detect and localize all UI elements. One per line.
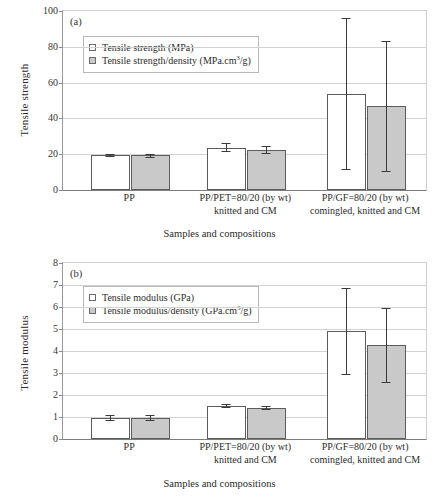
- y-axis-tick-mark: [59, 417, 63, 418]
- y-axis-title-b: Tensile modulus: [18, 273, 30, 433]
- error-bar-cap: [146, 157, 155, 158]
- y-axis-tick-mark: [59, 190, 63, 191]
- y-axis-tick-mark: [59, 307, 63, 308]
- y-axis-tick-mark: [59, 11, 63, 12]
- bar: [131, 155, 170, 190]
- error-bar-cap: [106, 420, 115, 421]
- plot-area-b: (b) Tensile modulus (GPa)Tensile modulus…: [62, 262, 427, 440]
- y-axis-tick-mark: [59, 351, 63, 352]
- error-bar: [346, 288, 347, 374]
- y-axis-tick-label: 6: [53, 302, 58, 312]
- y-axis-tick-mark: [59, 263, 63, 264]
- legend-item: Tensile modulus (GPa): [89, 292, 251, 303]
- error-bar-cap: [262, 409, 271, 410]
- y-axis-tick-label: 5: [53, 324, 58, 334]
- error-bar-cap: [222, 407, 231, 408]
- y-axis-tick-mark: [59, 154, 63, 155]
- error-bar-cap: [106, 156, 115, 157]
- gridline: [63, 329, 426, 330]
- x-axis-category-line1: PP/GF=80/20 (by wt): [290, 192, 439, 205]
- y-axis-tick-mark: [59, 47, 63, 48]
- error-bar-cap: [262, 153, 271, 154]
- gridline: [63, 47, 426, 48]
- y-axis-tick-mark: [59, 395, 63, 396]
- y-axis-tick-label: 3: [53, 368, 58, 378]
- error-bar-cap: [342, 288, 351, 289]
- error-bar-cap: [382, 41, 391, 42]
- plot-area-a: (a) Tensile strength (MPa)Tensile streng…: [62, 10, 427, 191]
- error-bar-cap: [222, 151, 231, 152]
- legend-item: Tensile modulus/density (GPa.cm3/g): [89, 304, 251, 316]
- y-axis-tick-label: 100: [43, 6, 58, 16]
- y-axis-tick-label: 4: [53, 346, 58, 356]
- error-bar-cap: [382, 308, 391, 309]
- y-axis-tick-label: 7: [53, 280, 58, 290]
- y-axis-tick-mark: [59, 373, 63, 374]
- legend-b: Tensile modulus (GPa)Tensile modulus/den…: [83, 286, 259, 323]
- bar: [91, 418, 130, 439]
- bar: [247, 408, 286, 439]
- y-axis-tick-mark: [59, 329, 63, 330]
- y-axis-tick-mark: [59, 118, 63, 119]
- gridline: [63, 285, 426, 286]
- chart-panel-a: Tensile strength (a) Tensile strength (M…: [0, 0, 439, 249]
- error-bar: [346, 18, 347, 168]
- x-axis-category-line2: comingled, knitted and CM: [290, 454, 439, 467]
- legend-item: Tensile strength/density (MPa.cm3/g): [89, 54, 251, 66]
- y-axis-tick-label: 2: [53, 390, 58, 400]
- error-bar-cap: [146, 420, 155, 421]
- error-bar-cap: [342, 169, 351, 170]
- legend-swatch-filled-icon: [89, 57, 96, 64]
- error-bar-cap: [262, 406, 271, 407]
- y-axis-tick-label: 60: [48, 78, 58, 88]
- y-axis-tick-mark: [59, 285, 63, 286]
- error-bar-cap: [382, 171, 391, 172]
- y-axis-title-a: Tensile strength: [18, 20, 30, 180]
- y-axis-tick-label: 40: [48, 113, 58, 123]
- gridline: [63, 83, 426, 84]
- x-axis-title-a: Samples and compositions: [0, 228, 439, 239]
- legend-item-label: Tensile strength/density (MPa.cm3/g): [102, 54, 251, 66]
- error-bar: [226, 143, 227, 151]
- panel-label-a: (a): [70, 16, 82, 27]
- error-bar-cap: [262, 146, 271, 147]
- error-bar-cap: [222, 143, 231, 144]
- error-bar-cap: [146, 154, 155, 155]
- legend-swatch-open-icon: [89, 294, 96, 301]
- x-axis-category-line2: comingled, knitted and CM: [290, 205, 439, 218]
- x-axis-title-b: Samples and compositions: [0, 478, 439, 489]
- error-bar: [386, 308, 387, 382]
- error-bar-cap: [342, 374, 351, 375]
- y-axis-tick-label: 8: [53, 258, 58, 268]
- error-bar-cap: [382, 382, 391, 383]
- error-bar: [266, 146, 267, 153]
- legend-item-label: Tensile modulus (GPa): [102, 292, 194, 303]
- error-bar-cap: [222, 404, 231, 405]
- legend-a: Tensile strength (MPa)Tensile strength/d…: [83, 36, 259, 73]
- x-axis-category-label: PP/GF=80/20 (by wt)comingled, knitted an…: [290, 192, 439, 217]
- y-axis-tick-mark: [59, 439, 63, 440]
- error-bar-cap: [146, 415, 155, 416]
- y-axis-tick-label: 1: [53, 412, 58, 422]
- y-axis-tick-mark: [59, 83, 63, 84]
- x-axis-category-line1: PP/GF=80/20 (by wt): [290, 441, 439, 454]
- panel-label-b: (b): [70, 268, 82, 279]
- x-axis-category-label: PP/GF=80/20 (by wt)comingled, knitted an…: [290, 441, 439, 466]
- y-axis-tick-label: 80: [48, 42, 58, 52]
- bar: [247, 150, 286, 190]
- legend-item-label: Tensile modulus/density (GPa.cm3/g): [102, 304, 251, 316]
- error-bar-cap: [106, 415, 115, 416]
- y-axis-tick-label: 20: [48, 149, 58, 159]
- error-bar: [386, 41, 387, 171]
- bar: [91, 155, 130, 190]
- bar: [207, 148, 246, 190]
- bar: [207, 406, 246, 439]
- gridline: [63, 307, 426, 308]
- error-bar-cap: [342, 18, 351, 19]
- chart-panel-b: Tensile modulus (b) Tensile modulus (GPa…: [0, 250, 439, 499]
